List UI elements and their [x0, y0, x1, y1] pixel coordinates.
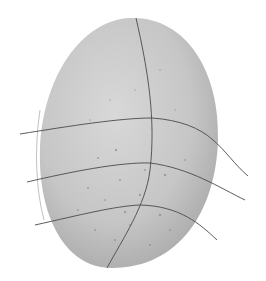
egg-illustration: [0, 0, 266, 281]
egg-svg: [0, 0, 266, 281]
egg-shell: [40, 18, 218, 268]
latitude-line-top-extension: [213, 140, 248, 176]
